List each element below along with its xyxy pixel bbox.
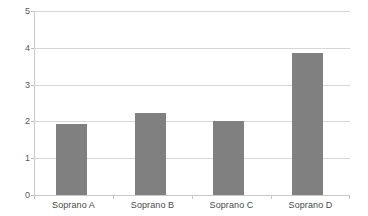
y-tick-label-4: 4 [4, 44, 30, 53]
x-category-label-3: Soprano D [271, 199, 350, 211]
gridline-4 [34, 48, 350, 49]
x-category-label-2: Soprano C [192, 199, 271, 211]
plot-area [34, 11, 350, 195]
bar-chart: 5 4 3 2 1 0 Soprano A Soprano B Soprano [0, 0, 368, 216]
y-tick-label-0: 0 [4, 191, 30, 200]
bar-soprano-c [213, 121, 244, 195]
bar-soprano-a [56, 124, 87, 195]
bar-soprano-b [135, 113, 166, 195]
y-tick-label-3: 3 [4, 81, 30, 90]
gridline-5 [34, 11, 350, 12]
y-tick-label-2: 2 [4, 117, 30, 126]
x-category-label-1: Soprano B [113, 199, 192, 211]
y-axis-labels: 5 4 3 2 1 0 [0, 0, 30, 216]
bar-soprano-d [292, 53, 323, 195]
y-tick-label-5: 5 [4, 7, 30, 16]
x-category-label-0: Soprano A [34, 199, 113, 211]
y-tick-label-1: 1 [4, 154, 30, 163]
x-axis-labels: Soprano A Soprano B Soprano C Soprano D [34, 199, 350, 215]
